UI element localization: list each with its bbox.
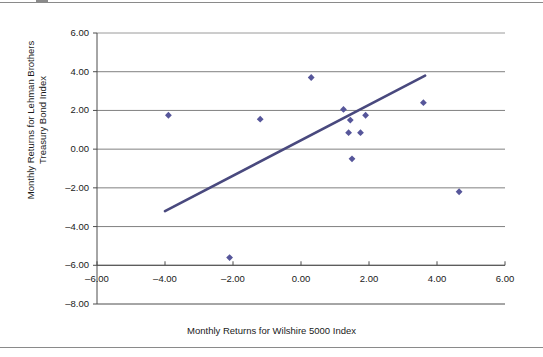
y-tick-label: 6.00 (43, 27, 89, 38)
data-points-group (165, 74, 463, 261)
data-point (345, 129, 352, 136)
x-tick-label: –6.00 (74, 273, 120, 284)
data-point (420, 99, 427, 106)
y-tick-label: 2.00 (43, 104, 89, 115)
data-point (340, 106, 347, 113)
data-point (349, 155, 356, 162)
y-tick-label: –6.00 (43, 259, 89, 270)
data-point (226, 254, 233, 261)
x-tick-label: –4.00 (142, 273, 188, 284)
data-point (165, 112, 172, 119)
x-tick-marks-group (97, 261, 505, 265)
y-axis-title-line-2: Treasury Bond Index (37, 41, 50, 199)
y-tick-label: 0.00 (43, 143, 89, 154)
y-tick-label: 4.00 (43, 66, 89, 77)
x-tick-label: 0.00 (278, 273, 324, 284)
y-tick-label: –2.00 (43, 182, 89, 193)
data-point (308, 74, 315, 81)
x-axis-title: Monthly Returns for Wilshire 5000 Index (0, 325, 543, 336)
x-tick-label: 4.00 (414, 273, 460, 284)
y-tick-label: –4.00 (43, 221, 89, 232)
gridlines-group (97, 33, 505, 265)
y-axis-title-line-1: Monthly Returns for Lehman Brothers (25, 41, 38, 199)
data-point (357, 129, 364, 136)
scatter-plot-figure: Monthly Returns for Lehman Brothers Trea… (0, 0, 543, 357)
x-tick-label: 6.00 (482, 273, 528, 284)
x-tick-label: 2.00 (346, 273, 392, 284)
y-tick-label: –8.00 (43, 298, 89, 309)
data-point (347, 117, 354, 124)
trendline (165, 76, 425, 212)
data-point (456, 188, 463, 195)
data-point (257, 116, 264, 123)
data-point (362, 112, 369, 119)
y-tick-marks-group (93, 33, 97, 304)
y-axis-title: Monthly Returns for Lehman Brothers Trea… (25, 41, 50, 199)
x-tick-label: –2.00 (210, 273, 256, 284)
